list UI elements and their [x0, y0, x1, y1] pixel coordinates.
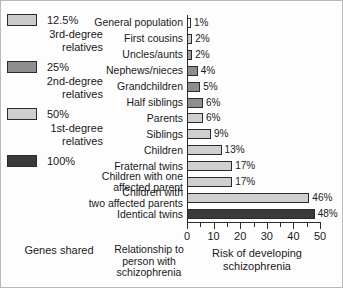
- legend-swatch: [7, 61, 37, 73]
- axis-tick-minor: [200, 223, 201, 227]
- category-label-line: Grandchildren: [117, 81, 183, 92]
- category-label-line: First cousins: [124, 33, 183, 44]
- category-label: Children withtwo affected parents: [111, 190, 185, 206]
- category-label-line: General population: [94, 17, 183, 28]
- category-label: Parents: [111, 111, 185, 127]
- legend-entry: 25%: [7, 60, 111, 74]
- axis-tick-major: [267, 223, 268, 229]
- category-label: Grandchildren: [111, 79, 185, 95]
- bar: [187, 98, 203, 108]
- category-axis-title-line3: schizophrenia: [111, 267, 187, 279]
- category-label-line: Identical twins: [117, 209, 183, 220]
- bar-row: 6%: [187, 111, 320, 127]
- legend-sublabel-line: 3rd-degree: [7, 28, 103, 41]
- category-label-line: Children: [144, 145, 183, 156]
- bar-value-label: 17%: [235, 161, 255, 171]
- axis-tick-major: [320, 223, 321, 229]
- bar-row: 2%: [187, 31, 320, 47]
- legend-sublabel-line: relatives: [7, 135, 103, 148]
- bar-value-label: 9%: [214, 129, 228, 139]
- axis-tick-major: [214, 223, 215, 229]
- axis-tick-label: 20: [228, 230, 252, 242]
- category-label-line: Half siblings: [126, 97, 183, 108]
- axis-tick-label: 40: [281, 230, 305, 242]
- legend-sublabel: 1st-degreerelatives: [7, 122, 103, 147]
- axis-tick-label: 50: [308, 230, 332, 242]
- category-axis-title: Relationship to person with schizophreni…: [111, 244, 187, 279]
- axis-tick-major: [187, 223, 188, 229]
- bar-value-label: 48%: [318, 209, 338, 219]
- category-label-line: Siblings: [146, 129, 183, 140]
- legend-group: 50%1st-degreerelatives: [7, 107, 111, 147]
- legend-group: 25%2nd-degreerelatives: [7, 60, 111, 100]
- bar: [187, 113, 203, 123]
- bar-row: 5%: [187, 79, 320, 95]
- value-axis-title-line1: Risk of developing: [187, 247, 327, 260]
- bar-value-label: 4%: [201, 66, 215, 76]
- bar-row: 48%: [187, 206, 320, 222]
- bar: [187, 82, 200, 92]
- legend-sublabel-line: 1st-degree: [7, 122, 103, 135]
- category-label: Uncles/aunts: [111, 47, 185, 63]
- value-axis-title-line2: schizophrenia: [187, 260, 327, 273]
- legend-swatch: [7, 14, 37, 26]
- bar: [187, 209, 315, 219]
- category-label: General population: [111, 15, 185, 31]
- legend-entry: 100%: [7, 154, 111, 168]
- axis-tick-label: 0: [175, 230, 199, 242]
- bar-row: 1%: [187, 15, 320, 31]
- bar: [187, 66, 198, 76]
- legend-percent-label: 12.5%: [47, 14, 78, 26]
- category-axis-title-line1: Relationship to: [111, 244, 187, 256]
- legend-sublabel-line: 2nd-degree: [7, 75, 103, 88]
- legend: 12.5%3rd-degreerelatives25%2nd-degreerel…: [7, 13, 111, 175]
- legend-swatch: [7, 108, 37, 120]
- bar-row: 17%: [187, 174, 320, 190]
- figure-container: 12.5%3rd-degreerelatives25%2nd-degreerel…: [0, 0, 343, 288]
- category-label: Children: [111, 142, 185, 158]
- category-label: Siblings: [111, 126, 185, 142]
- bar-value-label: 6%: [206, 98, 220, 108]
- legend-sublabel-line: relatives: [7, 88, 103, 101]
- category-label-line: Uncles/aunts: [122, 49, 183, 60]
- category-label-line: Nephews/nieces: [106, 65, 183, 76]
- bar-row: 46%: [187, 190, 320, 206]
- axis-tick-minor: [227, 223, 228, 227]
- legend-percent-label: 100%: [47, 155, 75, 167]
- bar-row: 2%: [187, 47, 320, 63]
- axis-tick-minor: [307, 223, 308, 227]
- axis-tick-minor: [280, 223, 281, 227]
- legend-sublabel: 3rd-degreerelatives: [7, 28, 103, 53]
- axis-tick-major: [293, 223, 294, 229]
- axis-tick-label: 30: [255, 230, 279, 242]
- bar: [187, 145, 222, 155]
- bar-row: 17%: [187, 158, 320, 174]
- legend-entry: 50%: [7, 107, 111, 121]
- bar-row: 13%: [187, 142, 320, 158]
- legend-percent-label: 50%: [47, 108, 69, 120]
- value-axis-title: Risk of developing schizophrenia: [187, 247, 327, 272]
- bar: [187, 129, 211, 139]
- category-label: First cousins: [111, 31, 185, 47]
- bar-value-label: 5%: [203, 82, 217, 92]
- legend-group: 100%: [7, 154, 111, 168]
- category-label: Nephews/nieces: [111, 63, 185, 79]
- axis-tick-major: [240, 223, 241, 229]
- axis-tick-label: 10: [202, 230, 226, 242]
- bar: [187, 177, 232, 187]
- bar-value-label: 46%: [312, 193, 332, 203]
- category-axis-labels: General populationFirst cousinsUncles/au…: [111, 15, 185, 222]
- bar-row: 9%: [187, 126, 320, 142]
- axis-tick-minor: [254, 223, 255, 227]
- legend-sublabel-line: relatives: [7, 41, 103, 54]
- category-label: Half siblings: [111, 95, 185, 111]
- bar-value-label: 6%: [206, 113, 220, 123]
- category-label: Identical twins: [111, 206, 185, 222]
- legend-title: Genes shared: [7, 244, 111, 256]
- bar-value-label: 13%: [225, 145, 245, 155]
- plot-area: 1%2%2%4%5%6%6%9%13%17%17%46%48%: [187, 15, 320, 222]
- legend-swatch: [7, 155, 37, 167]
- bar-value-label: 17%: [235, 177, 255, 187]
- category-label-line: Parents: [147, 113, 183, 124]
- legend-percent-label: 25%: [47, 61, 69, 73]
